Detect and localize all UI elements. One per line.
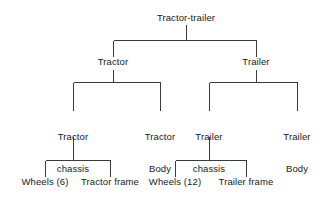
node-trailer-body-line1: Trailer <box>283 132 310 143</box>
node-trailer-chassis-line1: Trailer <box>193 132 225 143</box>
node-trailer-body-line2: Body <box>283 164 310 175</box>
node-trailer: Trailer <box>242 57 269 68</box>
node-tractor-body-line2: Body <box>145 164 175 175</box>
node-wheels-12: Wheels (12) <box>149 177 201 188</box>
node-trailer-body: Trailer Body <box>283 111 310 195</box>
node-wheels-6: Wheels (6) <box>22 177 69 188</box>
node-trailer-frame: Trailer frame <box>219 177 274 188</box>
node-trailer-chassis-line2: chassis <box>193 164 225 175</box>
node-tractor-chassis-line1: Tractor <box>57 132 89 143</box>
node-tractor: Tractor <box>98 57 128 68</box>
node-tractor-chassis-line2: chassis <box>57 164 89 175</box>
tractor-trailer-tree-diagram: Tractor-trailer Tractor Trailer Tractor … <box>0 0 320 205</box>
node-tractor-body-line1: Tractor <box>145 132 175 143</box>
node-tractor-trailer: Tractor-trailer <box>157 13 215 24</box>
node-tractor-frame: Tractor frame <box>81 177 139 188</box>
